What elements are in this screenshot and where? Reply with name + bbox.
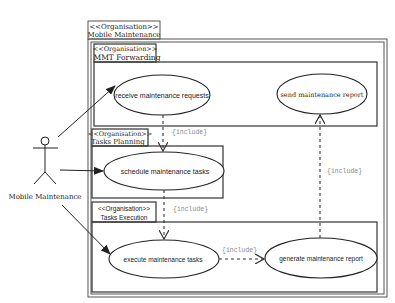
use-case-diagram: <<Organisation>> Mobile Maintenance <<Or…	[0, 0, 395, 303]
package-stereotype: <<Organisation>>	[89, 23, 159, 31]
package-stereotype: <<Organisation>>	[88, 130, 153, 138]
package-name: Mobile Maintenance	[87, 31, 160, 39]
use-case-schedule-maintenance-tasks[interactable]: schedule maintenance tasks	[104, 152, 224, 190]
use-case-generate-maintenance-report[interactable]: generate maintenance report	[265, 238, 377, 278]
include-label: {include}	[327, 168, 362, 175]
use-case-send-maintenance-report[interactable]: send maintenance report	[277, 74, 367, 114]
actor-mobile-maintenance[interactable]: Mobile Maintenance	[8, 137, 81, 201]
package-name: Tasks Execution	[101, 214, 148, 221]
package-name: MMT Forwarding	[94, 53, 161, 62]
use-case-label: receive maintenance requests	[115, 92, 209, 100]
stick-figure-icon	[33, 137, 58, 184]
use-case-label: generate maintenance report	[279, 255, 363, 263]
use-case-label: execute maintenance tasks	[124, 256, 204, 263]
use-case-label: schedule maintenance tasks	[121, 168, 210, 175]
include-label: {include}	[222, 247, 257, 254]
actor-label: Mobile Maintenance	[8, 193, 81, 201]
include-label: {include}	[172, 129, 207, 136]
use-case-label: send maintenance report	[281, 91, 364, 99]
association-schedule	[60, 170, 103, 171]
include-label: {include}	[173, 206, 208, 213]
use-case-receive-maintenance-requests[interactable]: receive maintenance requests	[114, 75, 210, 115]
include-labels: {include} {include} {include} {include}	[172, 129, 362, 254]
package-name: Tasks Planning	[91, 138, 145, 146]
package-stereotype: <<Organisation>>	[93, 45, 158, 53]
use-case-execute-maintenance-tasks[interactable]: execute maintenance tasks	[109, 240, 219, 278]
package-stereotype: <<Organisation>>	[98, 205, 150, 213]
